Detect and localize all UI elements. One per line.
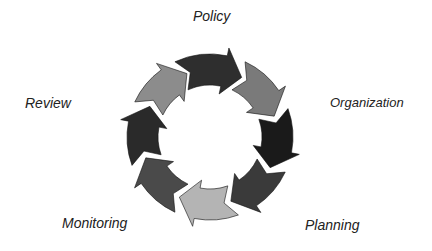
label-organization: Organization (330, 95, 404, 110)
cycle-arrow-segment (231, 159, 285, 212)
cycle-arrow-segment (179, 180, 238, 226)
cycle-ring (0, 0, 432, 251)
label-monitoring: Monitoring (62, 215, 127, 231)
cycle-arrow-segment (135, 63, 187, 115)
label-review: Review (25, 95, 71, 111)
label-policy: Policy (193, 8, 230, 24)
cycle-arrow-segment (135, 158, 188, 212)
cycle-arrow-segment (232, 62, 285, 116)
label-planning: Planning (305, 217, 360, 233)
cycle-arrow-segment (253, 109, 299, 168)
cycle-arrow-segment (121, 106, 167, 165)
